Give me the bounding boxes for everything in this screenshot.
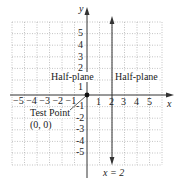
x-tick-3: 3 — [121, 97, 126, 107]
y-tick-neg-3: -3 — [76, 124, 84, 134]
left-half-plane-label: Half-plane — [51, 72, 94, 82]
boundary-label: x = 2 — [103, 168, 124, 178]
x-tick-1: 1 — [96, 97, 101, 107]
x-axis-arrow-icon — [166, 93, 174, 98]
y-axis-arrow-icon — [85, 7, 90, 15]
y-axis — [85, 7, 90, 178]
y-tick-3: 3 — [78, 52, 83, 62]
coordinate-plane — [0, 0, 184, 187]
test-point-marker — [85, 93, 90, 98]
boundary-line-x-2 — [110, 16, 115, 165]
x-ticks-negative: −5 −4 −3 −2 −1 — [13, 96, 76, 106]
y-tick-neg-1: -1 — [76, 101, 84, 111]
x-axis-label: x — [167, 99, 171, 109]
y-tick-neg-5: -5 — [76, 147, 84, 157]
arrow-up-icon — [110, 16, 115, 24]
x-tick-4: 4 — [134, 97, 139, 107]
y-tick-1: 1 — [78, 82, 83, 92]
y-axis-label: y — [79, 4, 83, 14]
right-half-plane-label: Half-plane — [115, 72, 158, 82]
y-tick-5: 5 — [78, 28, 83, 38]
y-tick-4: 4 — [78, 40, 83, 50]
test-point-coords: (0, 0) — [30, 120, 52, 130]
x-tick-5: 5 — [147, 97, 152, 107]
x-tick-2: 2 — [109, 97, 114, 107]
y-tick-neg-2: -2 — [76, 113, 84, 123]
arrow-down-icon — [110, 157, 115, 165]
test-point-label: Test Point — [30, 108, 70, 118]
y-tick-neg-4: -4 — [76, 136, 84, 146]
